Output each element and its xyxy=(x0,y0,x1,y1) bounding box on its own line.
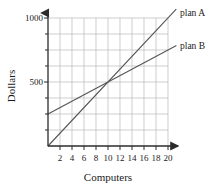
x-tick-label-10: 10 xyxy=(104,154,113,163)
series-label-plan-b: plan B xyxy=(180,41,205,51)
x-tick-label-14: 14 xyxy=(128,154,137,163)
x-axis-title: Computers xyxy=(84,172,132,183)
x-tick-label-6: 6 xyxy=(82,154,87,163)
y-tick-label-1000: 1000 xyxy=(10,14,43,23)
x-tick-label-12: 12 xyxy=(116,154,125,163)
x-tick-label-16: 16 xyxy=(140,154,149,163)
x-tick-label-8: 8 xyxy=(94,154,99,163)
x-tick-label-18: 18 xyxy=(152,154,161,163)
x-tick-label-4: 4 xyxy=(70,154,75,163)
x-tick-label-20: 20 xyxy=(164,154,173,163)
chart-figure: 1000 500 2 4 6 8 10 12 14 16 18 20 Compu… xyxy=(0,0,217,190)
x-tick-label-2: 2 xyxy=(58,154,63,163)
series-label-plan-a: plan A xyxy=(180,8,205,18)
y-axis-title: Dollars xyxy=(6,70,17,102)
